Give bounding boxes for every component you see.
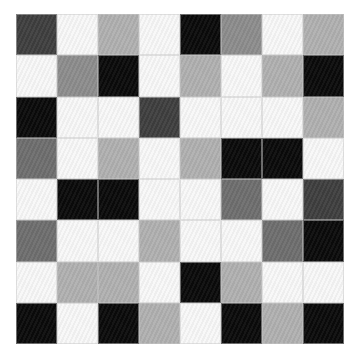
grid-cell xyxy=(139,220,180,261)
grid-cell xyxy=(180,55,221,96)
grid-cell xyxy=(57,55,98,96)
grid-cell xyxy=(98,303,139,344)
grid-cell xyxy=(16,303,57,344)
grid-cell xyxy=(180,262,221,303)
grid-cell xyxy=(16,179,57,220)
grid-cell xyxy=(303,179,344,220)
grid-cell xyxy=(57,179,98,220)
grid-cell xyxy=(57,220,98,261)
grid-cell xyxy=(262,220,303,261)
grid-cell xyxy=(139,97,180,138)
grid-cell xyxy=(180,14,221,55)
grid-cell xyxy=(16,138,57,179)
grid-cell xyxy=(139,262,180,303)
grid-cell xyxy=(139,55,180,96)
grid-cell xyxy=(98,55,139,96)
grid-cell xyxy=(57,14,98,55)
grid-cell xyxy=(98,138,139,179)
grid-cell xyxy=(262,179,303,220)
grayscale-grid xyxy=(16,14,344,344)
grid-cell xyxy=(262,55,303,96)
grid-cell xyxy=(16,220,57,261)
grid-cell xyxy=(16,14,57,55)
grid-cell xyxy=(16,55,57,96)
grid-cell xyxy=(98,97,139,138)
grid-cell xyxy=(57,97,98,138)
grid-cell xyxy=(262,303,303,344)
grid-cell xyxy=(303,220,344,261)
grid-cell xyxy=(139,303,180,344)
grid-cell xyxy=(303,55,344,96)
grid-cell xyxy=(221,179,262,220)
grid-cell xyxy=(221,97,262,138)
grid-cell xyxy=(303,303,344,344)
grid-cell xyxy=(139,14,180,55)
grid-cell xyxy=(180,220,221,261)
grid-cell xyxy=(221,55,262,96)
grid-cell xyxy=(16,97,57,138)
grid-cell xyxy=(57,262,98,303)
grid-cell xyxy=(98,179,139,220)
grid-cell xyxy=(139,138,180,179)
grid-cell xyxy=(262,262,303,303)
grid-cell xyxy=(303,138,344,179)
grid-cell xyxy=(221,138,262,179)
grid-cell xyxy=(180,179,221,220)
grid-cell xyxy=(180,138,221,179)
grid-cell xyxy=(98,262,139,303)
grid-cell xyxy=(221,303,262,344)
grid-cell xyxy=(221,262,262,303)
grid-cell xyxy=(139,179,180,220)
grid-cell xyxy=(303,262,344,303)
grid-cell xyxy=(262,14,303,55)
grid-cell xyxy=(221,220,262,261)
grid-cell xyxy=(98,14,139,55)
grid-cell xyxy=(180,97,221,138)
grid-cell xyxy=(221,14,262,55)
grid-cell xyxy=(57,138,98,179)
grid-cell xyxy=(180,303,221,344)
grid-cell xyxy=(262,138,303,179)
grid-cell xyxy=(16,262,57,303)
grid-cell xyxy=(303,97,344,138)
grid-cell xyxy=(262,97,303,138)
grid-cell xyxy=(57,303,98,344)
grid-cell xyxy=(98,220,139,261)
grid-cell xyxy=(303,14,344,55)
